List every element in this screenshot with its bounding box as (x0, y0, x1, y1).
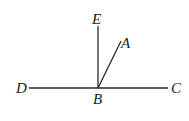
label-c: C (171, 80, 182, 96)
geometry-diagram: E A D B C (0, 0, 189, 121)
label-b: B (93, 91, 102, 107)
ray-ba (98, 41, 121, 88)
label-d: D (15, 80, 27, 96)
label-e: E (91, 11, 101, 27)
label-a: A (120, 35, 131, 51)
